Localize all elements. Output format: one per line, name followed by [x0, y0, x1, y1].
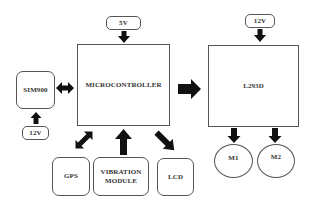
- arrow-l293d-to-m2: [269, 128, 282, 143]
- arrow-sim900-mcu-bidirectional: [56, 82, 74, 94]
- arrow-gps-mcu-bidirectional: [71, 127, 96, 152]
- arrow-mcu-to-l293d: [178, 79, 201, 99]
- connection-arrows: [0, 0, 314, 207]
- arrow-5v-to-mcu: [118, 31, 130, 43]
- arrow-vibration-to-mcu: [115, 129, 132, 155]
- arrow-12v-to-l293d: [254, 29, 266, 42]
- arrow-mcu-to-lcd: [152, 128, 180, 156]
- arrow-l293d-to-m1: [228, 128, 241, 143]
- arrow-12v-to-sim900: [31, 112, 42, 124]
